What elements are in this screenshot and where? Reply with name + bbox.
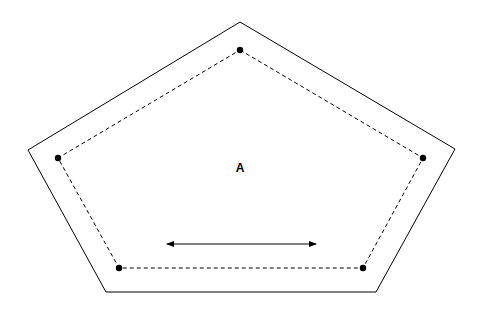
vertex-dots bbox=[55, 47, 426, 271]
pentagon-diagram bbox=[0, 0, 481, 309]
inner-dashed-pentagon bbox=[58, 50, 423, 268]
region-label-a: A bbox=[236, 161, 245, 175]
vertex-dot bbox=[55, 155, 61, 161]
vertex-dot bbox=[420, 155, 426, 161]
diagram-canvas: A bbox=[0, 0, 481, 309]
vertex-dot bbox=[360, 265, 366, 271]
outer-pentagon bbox=[28, 22, 455, 292]
vertex-dot bbox=[116, 265, 122, 271]
vertex-dot bbox=[237, 47, 243, 53]
